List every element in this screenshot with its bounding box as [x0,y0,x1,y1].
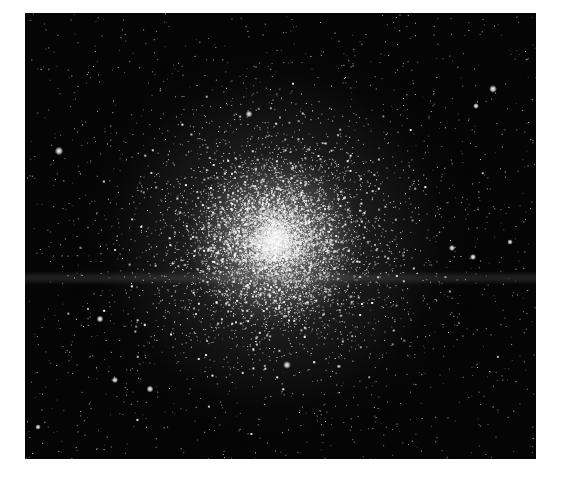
page [0,0,564,485]
star-field [25,13,536,459]
star-cluster-image [25,13,536,459]
